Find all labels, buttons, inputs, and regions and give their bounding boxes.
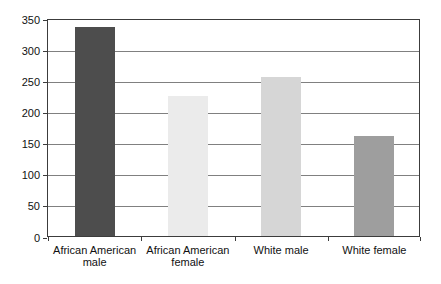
x-axis-tick-mark-4 bbox=[420, 237, 421, 241]
x-axis-tick-mark-0 bbox=[48, 237, 49, 241]
plot-area: 050100150200250300350African American ma… bbox=[47, 19, 420, 237]
y-axis-tick-mark-0 bbox=[43, 238, 47, 239]
y-axis-tick-mark-200 bbox=[43, 113, 47, 114]
bar-chart: 050100150200250300350African American ma… bbox=[0, 0, 441, 284]
y-axis-tick-mark-50 bbox=[43, 206, 47, 207]
y-axis-tick-label-150: 150 bbox=[10, 139, 40, 150]
y-axis-tick-label-0: 0 bbox=[10, 233, 40, 244]
bar-african-american-female bbox=[168, 96, 208, 236]
x-axis-tick-mark-3 bbox=[328, 237, 329, 241]
y-axis-tick-label-300: 300 bbox=[10, 46, 40, 57]
x-axis-category-label-white-male: White male bbox=[233, 244, 329, 256]
y-axis-tick-label-100: 100 bbox=[10, 170, 40, 181]
y-axis-tick-mark-350 bbox=[43, 20, 47, 21]
bar-white-male bbox=[261, 77, 301, 236]
y-axis-tick-mark-150 bbox=[43, 144, 47, 145]
bar-white-female bbox=[354, 136, 394, 236]
x-axis-category-label-white-female: White female bbox=[326, 244, 422, 256]
y-axis-tick-mark-300 bbox=[43, 51, 47, 52]
y-axis-tick-mark-250 bbox=[43, 82, 47, 83]
x-axis-category-label-african-american-female: African American female bbox=[140, 244, 236, 268]
bar-african-american-male bbox=[75, 27, 115, 236]
x-axis-tick-mark-1 bbox=[141, 237, 142, 241]
y-axis-tick-label-200: 200 bbox=[10, 108, 40, 119]
y-axis-tick-label-250: 250 bbox=[10, 77, 40, 88]
y-axis-tick-mark-100 bbox=[43, 175, 47, 176]
y-axis-tick-label-50: 50 bbox=[10, 201, 40, 212]
x-axis-tick-mark-2 bbox=[235, 237, 236, 241]
y-axis-tick-label-350: 350 bbox=[10, 15, 40, 26]
x-axis-category-label-african-american-male: African American male bbox=[47, 244, 143, 268]
